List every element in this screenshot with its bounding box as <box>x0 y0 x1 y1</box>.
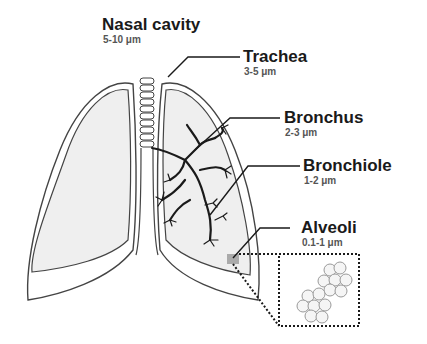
label-name: Trachea <box>243 48 307 65</box>
label-name: Alveoli <box>301 219 357 236</box>
label-bronchiole: Bronchiole 1-2 μm <box>303 157 392 186</box>
label-size: 2-3 μm <box>285 128 363 138</box>
alveoli-cluster <box>297 262 352 323</box>
label-name: Bronchus <box>284 109 363 126</box>
trachea-rings <box>140 78 154 147</box>
label-size: 5-10 μm <box>103 35 200 45</box>
label-name: Bronchiole <box>303 157 392 174</box>
label-size: 3-5 μm <box>244 67 307 77</box>
label-trachea: Trachea 3-5 μm <box>243 48 307 77</box>
label-name: Nasal cavity <box>102 16 200 33</box>
mediastinum <box>136 148 158 255</box>
label-size: 1-2 μm <box>304 176 392 186</box>
label-size: 0.1-1 μm <box>302 238 357 248</box>
label-bronchus: Bronchus 2-3 μm <box>284 109 363 138</box>
label-alveoli: Alveoli 0.1-1 μm <box>301 219 357 248</box>
label-nasal-cavity: Nasal cavity 5-10 μm <box>102 16 200 45</box>
alveoli-marker <box>227 254 239 264</box>
